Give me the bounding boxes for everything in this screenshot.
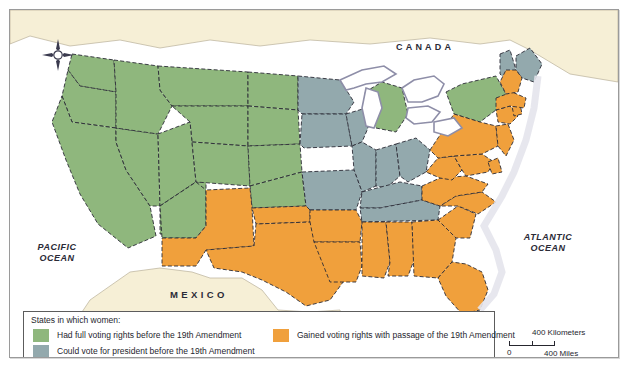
us-states-map: .st{stroke:#2b2b37;stroke-width:0.9;stro… bbox=[10, 10, 618, 357]
map-figure: .st{stroke:#2b2b37;stroke-width:0.9;stro… bbox=[0, 0, 627, 377]
legend-title: States in which women: bbox=[31, 315, 120, 325]
legend-label-gray: Could vote for president before the 19th… bbox=[57, 346, 255, 356]
scale-tick-end bbox=[554, 341, 555, 346]
legend-label-green: Had full voting rights before the 19th A… bbox=[57, 330, 241, 340]
compass-rose-icon bbox=[40, 37, 76, 73]
scale-kilometers-label: 400 Kilometers bbox=[532, 328, 585, 337]
scale-zero-label: 0 bbox=[507, 348, 511, 357]
legend-swatch-green bbox=[33, 329, 49, 342]
compass-rose bbox=[40, 37, 76, 73]
map-legend: States in which women: Had full voting r… bbox=[23, 311, 495, 358]
map-frame: .st{stroke:#2b2b37;stroke-width:0.9;stro… bbox=[9, 9, 619, 358]
scale-bar: 400 Kilometers 0 400 Miles bbox=[507, 328, 619, 358]
legend-label-orange: Gained voting rights with passage of the… bbox=[297, 330, 515, 340]
legend-swatch-gray bbox=[33, 345, 49, 358]
scale-miles-label: 400 Miles bbox=[544, 349, 578, 358]
legend-swatch-orange bbox=[273, 329, 289, 342]
scale-tick-mid bbox=[532, 341, 533, 346]
scale-tick-start bbox=[509, 341, 510, 346]
